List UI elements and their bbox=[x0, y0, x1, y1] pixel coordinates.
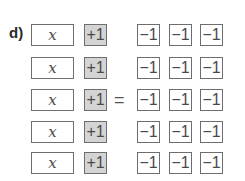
minus-one-tile: −1 bbox=[200, 89, 223, 111]
minus-one-tile: −1 bbox=[169, 89, 192, 111]
minus-one-tile: −1 bbox=[200, 24, 223, 46]
x-tile: x bbox=[31, 57, 74, 79]
minus-one-tile: −1 bbox=[137, 24, 160, 46]
minus-one-tile: −1 bbox=[137, 152, 160, 174]
equals-sign: = bbox=[114, 89, 125, 111]
minus-one-tile: −1 bbox=[200, 121, 223, 143]
tile-row: x +1 −1 −1 −1 bbox=[0, 121, 245, 143]
plus-one-tile: +1 bbox=[84, 24, 107, 46]
plus-one-tile: +1 bbox=[84, 57, 107, 79]
minus-one-tile: −1 bbox=[200, 152, 223, 174]
x-tile: x bbox=[31, 89, 74, 111]
x-tile: x bbox=[31, 152, 74, 174]
minus-one-tile: −1 bbox=[169, 152, 192, 174]
x-tile: x bbox=[31, 24, 74, 46]
minus-one-tile: −1 bbox=[169, 57, 192, 79]
tile-row: x +1 −1 −1 −1 bbox=[0, 24, 245, 46]
minus-one-tile: −1 bbox=[169, 24, 192, 46]
minus-one-tile: −1 bbox=[137, 89, 160, 111]
minus-one-tile: −1 bbox=[200, 57, 223, 79]
plus-one-tile: +1 bbox=[84, 121, 107, 143]
tile-row: x +1 = −1 −1 −1 bbox=[0, 89, 245, 111]
minus-one-tile: −1 bbox=[137, 57, 160, 79]
tile-row: x +1 −1 −1 −1 bbox=[0, 152, 245, 174]
minus-one-tile: −1 bbox=[169, 121, 192, 143]
plus-one-tile: +1 bbox=[84, 152, 107, 174]
minus-one-tile: −1 bbox=[137, 121, 160, 143]
x-tile: x bbox=[31, 121, 74, 143]
plus-one-tile: +1 bbox=[84, 89, 107, 111]
tile-row: x +1 −1 −1 −1 bbox=[0, 57, 245, 79]
